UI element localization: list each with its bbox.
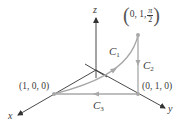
point-label-0-1-pi-over-2: (0, 1,π2) — [123, 5, 160, 25]
right-paren: ) — [153, 4, 160, 26]
c3-arrow-icon — [93, 92, 99, 97]
point-0-1-pi-over-2 — [136, 33, 140, 37]
point-label-prefix: 0, 1, — [130, 9, 147, 19]
z-axis-label: z — [93, 5, 97, 15]
curve-label-c1: C1 — [109, 46, 120, 59]
point-label-1-0-0: (1, 0, 0) — [19, 82, 49, 92]
diagram-canvas: z x y (1, 0, 0) (0, 1, 0) (0, 1,π2) C1 C… — [0, 0, 187, 125]
point-0-1-0 — [136, 92, 140, 96]
curve-label-c2: C2 — [143, 60, 154, 73]
c2-arrow-icon — [136, 60, 141, 66]
y-axis-label: y — [168, 104, 172, 114]
x-axis — [18, 70, 96, 115]
left-paren: ( — [123, 4, 130, 26]
point-1-0-0 — [52, 92, 56, 96]
x-axis-label: x — [8, 111, 12, 121]
curve-label-c3: C3 — [93, 100, 104, 113]
point-label-0-1-0: (0, 1, 0) — [142, 82, 172, 92]
